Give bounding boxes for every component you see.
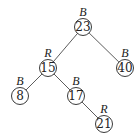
node-color-label: B	[16, 74, 24, 88]
tree-node: 17B	[68, 74, 85, 105]
node-key: 21	[96, 117, 111, 131]
tree-edge	[89, 33, 119, 62]
tree-node: 23B	[75, 5, 92, 36]
tree-edge	[82, 102, 98, 118]
node-key: 23	[75, 20, 90, 34]
tree-node: 21R	[96, 102, 113, 133]
red-black-tree-diagram: 23B15R40B8B17B21R	[0, 0, 136, 139]
tree-edge	[26, 74, 42, 90]
tree-node: 15R	[40, 46, 57, 77]
tree-nodes: 23B15R40B8B17B21R	[12, 5, 134, 133]
node-key: 8	[16, 89, 24, 103]
node-color-label: B	[121, 46, 129, 60]
tree-node: 8B	[12, 74, 29, 105]
node-key: 17	[68, 89, 83, 103]
node-key: 15	[40, 61, 55, 75]
node-color-label: R	[43, 46, 52, 60]
node-color-label: B	[79, 5, 87, 19]
tree-edge	[54, 33, 78, 61]
tree-node: 40B	[117, 46, 134, 77]
node-color-label: R	[99, 102, 108, 116]
node-key: 40	[117, 61, 132, 75]
tree-edge	[54, 74, 70, 90]
node-color-label: B	[72, 74, 80, 88]
